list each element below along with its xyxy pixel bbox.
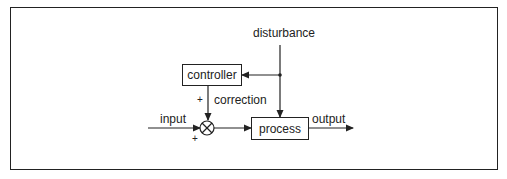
summing-junction-icon <box>200 121 214 135</box>
input-label: input <box>160 113 186 125</box>
correction-label: correction <box>214 94 267 106</box>
controller-label: controller <box>187 68 236 82</box>
controller-block: controller <box>182 64 242 86</box>
correction-sign: + <box>197 95 203 105</box>
output-label: output <box>312 113 345 125</box>
process-block: process <box>251 117 309 140</box>
process-label: process <box>259 122 301 136</box>
disturbance-label: disturbance <box>253 27 315 39</box>
input-sign: + <box>192 134 198 144</box>
